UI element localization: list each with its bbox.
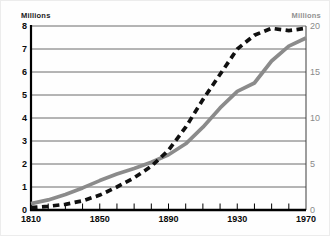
left-axis-tick-label: 5 (22, 90, 27, 100)
left-axis-tick-label: 4 (22, 113, 27, 123)
x-axis-year-label: 1930 (227, 214, 247, 224)
left-axis-tick-label: 8 (22, 21, 27, 31)
chart-canvas: 0123456780510152018101850189019301970 (1, 1, 330, 236)
x-axis-year-label: 1890 (158, 214, 178, 224)
right-axis-tick-label: 5 (310, 159, 315, 169)
population-chart: Millions Millions 0123456780510152018101… (0, 0, 330, 236)
left-axis-tick-label: 6 (22, 67, 27, 77)
left-axis-tick-label: 2 (22, 159, 27, 169)
series-solid-gray-line (31, 38, 306, 204)
x-axis-year-label: 1850 (90, 214, 110, 224)
x-axis-year-label: 1970 (296, 214, 316, 224)
left-axis-tick-label: 1 (22, 182, 27, 192)
left-axis-tick-label: 7 (22, 44, 27, 54)
left-axis-tick-label: 3 (22, 136, 27, 146)
right-axis-tick-label: 15 (310, 67, 320, 77)
right-axis-tick-label: 10 (310, 113, 320, 123)
right-axis-tick-label: 20 (310, 21, 320, 31)
x-axis-year-label: 1810 (21, 214, 41, 224)
